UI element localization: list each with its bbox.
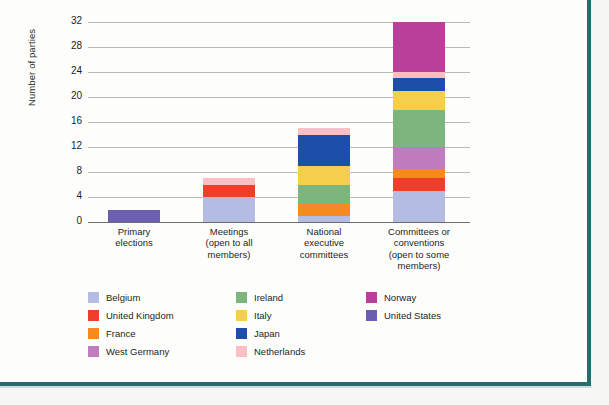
bar-segment-belgium	[298, 216, 350, 222]
legend-swatch-netherlands	[236, 346, 247, 357]
legend-item: United Kingdom	[88, 306, 174, 324]
legend-label: West Germany	[106, 346, 169, 357]
y-axis-title: Number of parties	[26, 0, 37, 106]
y-tick-label-28: 28	[71, 40, 82, 51]
legend-label: Netherlands	[254, 346, 305, 357]
legend-label: Japan	[254, 328, 280, 339]
bar-segment-italy	[393, 91, 445, 110]
bar-segment-united-states	[108, 210, 160, 223]
legend-swatch-west-germany	[88, 346, 99, 357]
plot-area: 048121620242832	[88, 22, 470, 222]
legend-swatch-belgium	[88, 292, 99, 303]
y-tick-label-4: 4	[76, 190, 82, 201]
legend-item: West Germany	[88, 342, 174, 360]
x-axis-label-1: Meetings(open to allmembers)	[177, 226, 281, 260]
legend-item: Italy	[236, 306, 305, 324]
y-tick-label-16: 16	[71, 115, 82, 126]
bar-segment-west-germany	[393, 147, 445, 169]
legend-label: United States	[384, 310, 441, 321]
x-axis-label-0: Primaryelections	[82, 226, 186, 249]
bar-segment-belgium	[393, 191, 445, 222]
page-background: Number of parties 048121620242832 Primar…	[0, 0, 609, 405]
legend-item: Ireland	[236, 288, 305, 306]
y-tick-label-8: 8	[76, 165, 82, 176]
bar-segment-japan	[298, 135, 350, 166]
legend-column-3: NorwayUnited States	[366, 288, 441, 324]
legend-item: United States	[366, 306, 441, 324]
legend-item: France	[88, 324, 174, 342]
legend-column-1: BelgiumUnited KingdomFranceWest Germany	[88, 288, 174, 360]
legend-swatch-japan	[236, 328, 247, 339]
legend-label: Belgium	[106, 292, 140, 303]
y-tick-label-12: 12	[71, 140, 82, 151]
bar-0	[108, 210, 160, 223]
bar-segment-norway	[393, 22, 445, 72]
legend-swatch-ireland	[236, 292, 247, 303]
legend-item: Belgium	[88, 288, 174, 306]
legend-label: Ireland	[254, 292, 283, 303]
bar-segment-france	[393, 169, 445, 178]
y-tick-label-20: 20	[71, 90, 82, 101]
x-axis-label-3: Committees orconventions(open to somemem…	[367, 226, 471, 272]
y-tick-label-24: 24	[71, 65, 82, 76]
legend-label: Italy	[254, 310, 271, 321]
bar-segment-ireland	[393, 110, 445, 148]
legend-label: United Kingdom	[106, 310, 174, 321]
bar-segment-japan	[393, 78, 445, 91]
y-tick-label-32: 32	[71, 15, 82, 26]
legend-label: France	[106, 328, 136, 339]
bar-segment-united-kingdom	[203, 185, 255, 198]
legend-item: Netherlands	[236, 342, 305, 360]
bar-segment-netherlands	[203, 178, 255, 184]
bar-segment-united-kingdom	[393, 178, 445, 191]
bar-segment-netherlands	[393, 72, 445, 78]
bar-segment-france	[298, 203, 350, 216]
gridline-0: 0	[88, 222, 470, 223]
legend-swatch-france	[88, 328, 99, 339]
bar-3	[393, 22, 445, 222]
legend-swatch-norway	[366, 292, 377, 303]
legend-item: Norway	[366, 288, 441, 306]
legend-swatch-united-states	[366, 310, 377, 321]
frame-bottom-shadow	[0, 386, 591, 388]
legend-column-2: IrelandItalyJapanNetherlands	[236, 288, 305, 360]
bar-2	[298, 128, 350, 222]
legend-item: Japan	[236, 324, 305, 342]
bar-segment-belgium	[203, 197, 255, 222]
x-axis-label-2: Nationalexecutivecommittees	[272, 226, 376, 260]
legend-swatch-italy	[236, 310, 247, 321]
legend-label: Norway	[384, 292, 416, 303]
legend-swatch-united-kingdom	[88, 310, 99, 321]
bar-segment-netherlands	[298, 128, 350, 134]
bar-1	[203, 178, 255, 222]
y-tick-label-0: 0	[76, 215, 82, 226]
bar-segment-italy	[298, 166, 350, 185]
bar-segment-ireland	[298, 185, 350, 204]
